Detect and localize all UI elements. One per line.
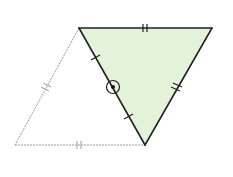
rhombus-diagram: [0, 0, 233, 177]
double-tick-left-dashed: [41, 83, 51, 91]
dashed-edge-left: [15, 28, 79, 145]
shaded-equilateral-triangle: [79, 28, 212, 145]
